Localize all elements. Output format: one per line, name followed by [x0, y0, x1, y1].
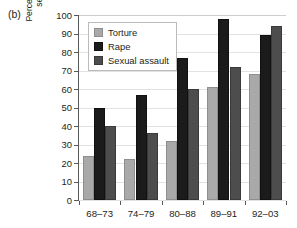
y-tick-label-40: 40 [46, 122, 72, 131]
bar [218, 19, 229, 200]
legend-swatch-torture [94, 28, 103, 37]
gridline-0 [79, 200, 286, 201]
x-tick [286, 201, 287, 205]
legend-swatch-rape [94, 42, 103, 51]
y-tick-label-50: 50 [46, 103, 72, 112]
bar [83, 156, 94, 200]
legend-label-torture: Torture [108, 28, 137, 38]
bar [124, 159, 135, 200]
y-tick-label-0: 0 [46, 196, 72, 205]
x-tick [79, 201, 80, 205]
bar [177, 58, 188, 200]
legend-item-rape: Rape [94, 41, 169, 52]
y-tick-label-80: 80 [46, 48, 72, 57]
x-axis-label: 89–91 [203, 208, 244, 219]
x-tick [203, 201, 204, 205]
x-axis-label: 80–88 [162, 208, 203, 219]
y-tick-label-10: 10 [46, 177, 72, 186]
y-tick-label-90: 90 [46, 29, 72, 38]
x-tick [162, 201, 163, 205]
x-tick [245, 201, 246, 205]
bar [249, 74, 260, 200]
bar [271, 26, 282, 200]
bar [105, 126, 116, 200]
y-tick-label-100: 100 [46, 11, 72, 20]
legend-label-sexual-assault: Sexual assault [108, 56, 169, 66]
bar [207, 87, 218, 200]
legend-item-sexual-assault: Sexual assault [94, 55, 169, 66]
bar [230, 67, 241, 200]
bar [188, 89, 199, 200]
chart-legend: Torture Rape Sexual assault [88, 22, 177, 71]
x-axis-label: 92–03 [245, 208, 286, 219]
x-axis-label: 68–73 [79, 208, 120, 219]
bar [136, 95, 147, 200]
figure-panel-b: (b) Percent reporting torture/forcible r… [0, 0, 297, 228]
legend-item-torture: Torture [94, 27, 169, 38]
legend-swatch-sexual-assault [94, 56, 103, 65]
y-tick-label-70: 70 [46, 66, 72, 75]
legend-label-rape: Rape [108, 42, 130, 52]
y-tick-label-30: 30 [46, 140, 72, 149]
y-tick-label-20: 20 [46, 159, 72, 168]
bar [147, 133, 158, 200]
y-tick-label-60: 60 [46, 85, 72, 94]
bar [166, 141, 177, 200]
bar [260, 35, 271, 200]
x-axis-label: 74–79 [120, 208, 161, 219]
x-tick [120, 201, 121, 205]
bar [94, 108, 105, 201]
